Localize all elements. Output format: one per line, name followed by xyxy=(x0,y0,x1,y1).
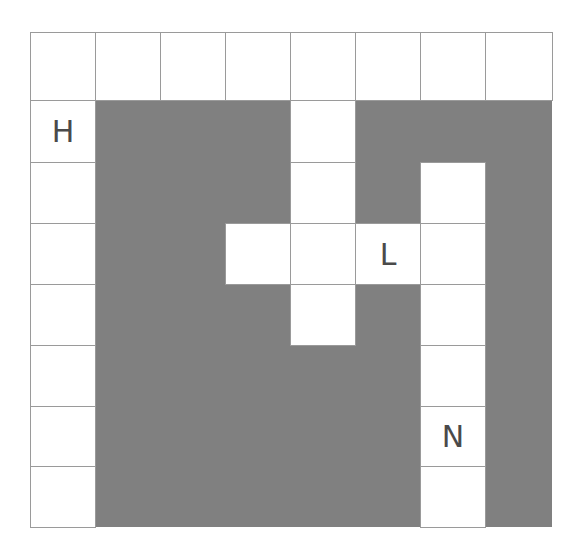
grid-cell xyxy=(30,223,96,285)
grid-cell: H xyxy=(30,100,96,163)
grid-cell xyxy=(30,466,96,528)
grid-cell xyxy=(30,406,96,467)
grid-cell xyxy=(225,32,291,101)
cell-label: H xyxy=(52,114,75,149)
grid-cell xyxy=(420,223,486,285)
grid-cell xyxy=(160,32,226,101)
grid-cell: N xyxy=(420,406,486,467)
grid-cell xyxy=(420,162,486,224)
grid-cell xyxy=(95,32,161,101)
grid-cell xyxy=(225,223,291,285)
cell-label: L xyxy=(380,237,397,272)
grid-cell xyxy=(290,162,356,224)
grid-cell xyxy=(420,32,486,101)
grid-cell xyxy=(420,345,486,407)
grid-cell xyxy=(420,284,486,346)
grid-cell xyxy=(30,284,96,346)
grid-cell xyxy=(30,345,96,407)
cell-label: N xyxy=(442,419,464,454)
grid-cell: L xyxy=(355,223,421,285)
grid-cell xyxy=(290,223,356,285)
grid-cell xyxy=(290,32,356,101)
grid-cell xyxy=(420,466,486,528)
grid-cell xyxy=(355,32,421,101)
grid-cell xyxy=(485,32,553,101)
letter-grid: HLN xyxy=(30,32,552,527)
grid-cell xyxy=(30,32,96,101)
grid-cell xyxy=(30,162,96,224)
grid-cell xyxy=(290,100,356,163)
grid-cell xyxy=(290,284,356,346)
